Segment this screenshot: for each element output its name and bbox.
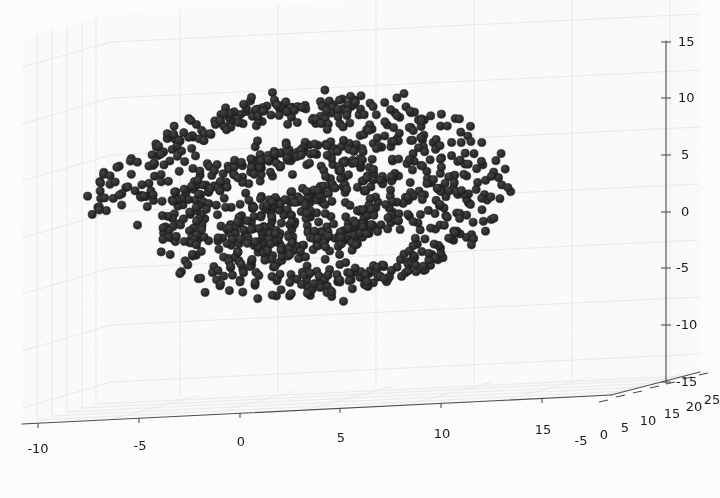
- x-tick-label-neg10: -10: [27, 442, 48, 455]
- z-tick-label-neg10: -10: [676, 318, 697, 331]
- y-tick-label-neg5: -5: [575, 434, 588, 447]
- y-tick-label-0: 0: [600, 428, 608, 441]
- y-tick-label-25: 25: [704, 393, 720, 406]
- x-tick-label-15: 15: [535, 423, 552, 436]
- figure-canvas: 15 10 5 0 -5 -10 -15 -10 -5 0 5 10 15 -5…: [0, 0, 720, 498]
- z-tick-label-neg5: -5: [676, 261, 689, 274]
- z-tick-label-5: 5: [681, 148, 689, 161]
- pane-back: [111, 0, 700, 400]
- axes-3d: [0, 0, 720, 498]
- x-tick-label-0: 0: [237, 435, 245, 448]
- y-tick-label-20: 20: [686, 400, 703, 413]
- z-tick-label-10: 10: [678, 91, 695, 104]
- y-tick-label-10: 10: [640, 414, 657, 427]
- pane-left: [22, 13, 111, 424]
- x-tick-label-5: 5: [337, 431, 345, 444]
- y-tick-label-15: 15: [664, 407, 681, 420]
- z-tick-label-neg15: -15: [676, 375, 697, 388]
- y-tick-label-5: 5: [621, 421, 629, 434]
- x-tick-label-10: 10: [434, 427, 451, 440]
- z-tick-label-15: 15: [678, 35, 695, 48]
- x-tick-label-neg5: -5: [134, 439, 147, 452]
- z-tick-label-0: 0: [681, 205, 689, 218]
